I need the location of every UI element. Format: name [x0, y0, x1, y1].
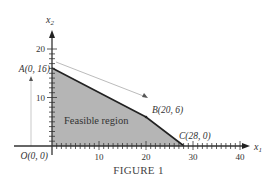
y-axis-arrow-icon: [49, 30, 55, 38]
y-tick-20: 20: [36, 44, 46, 54]
x-tick-20: 20: [142, 152, 152, 162]
x-tick-10: 10: [95, 152, 105, 162]
point-o-label: O(0, 0): [21, 151, 48, 162]
point-a-label: A(0, 16): [18, 64, 50, 75]
x-axis-label: x1: [253, 141, 262, 154]
arrowhead-icon: [142, 93, 148, 98]
figure-caption: FIGURE 1: [0, 164, 277, 176]
x-tick-30: 30: [189, 152, 199, 162]
x-tick-40: 40: [236, 152, 246, 162]
point-b-marker: [145, 116, 148, 119]
y-axis-label: x2: [45, 14, 54, 27]
feasible-region-diagram: 10 20 30 40 10 20 x1 x2 A(0, 16) B(20, 6…: [0, 0, 277, 186]
point-c-label: C(28, 0): [179, 131, 211, 142]
arrowhead-up-icon: [29, 76, 33, 81]
feasible-region-label: Feasible region: [64, 115, 129, 126]
point-b-label: B(20, 6): [152, 105, 183, 116]
x-axis-arrow-icon: [242, 143, 250, 149]
y-tick-10: 10: [36, 93, 46, 103]
